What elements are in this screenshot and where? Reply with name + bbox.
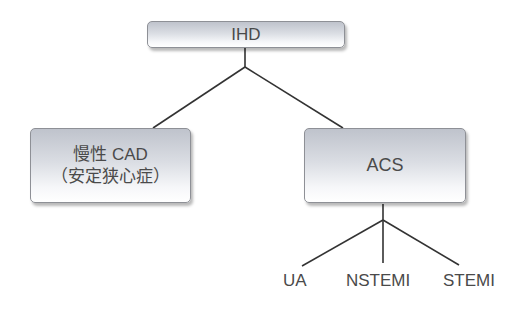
leaf-nstemi: NSTEMI [346,271,410,291]
node-acs-label: ACS [366,154,403,177]
node-cad-label-line1: 慢性 CAD [73,144,148,165]
node-ihd-label: IHD [231,24,260,45]
node-cad-label-line2: （安定狭心症） [51,166,170,187]
edge-ihd-to-acs [245,67,343,128]
edge-ihd-to-cad [153,67,245,128]
edge-acs-to-ua [302,220,383,266]
edge-acs-to-stemi [383,220,459,265]
node-chronic-cad: 慢性 CAD （安定狭心症） [30,128,191,203]
node-ihd: IHD [147,21,345,48]
leaf-ua: UA [283,271,307,291]
leaf-stemi: STEMI [443,271,495,291]
node-acs: ACS [304,128,466,203]
